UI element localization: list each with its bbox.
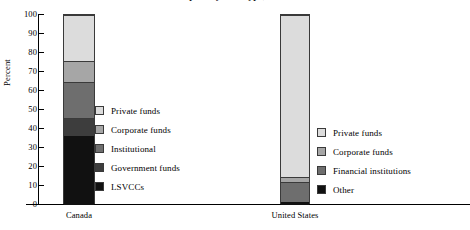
- y-tick: 0: [12, 199, 44, 209]
- y-tick-mark: [39, 147, 44, 148]
- chart-title: Venture capital by fund type, 2002: [0, 0, 432, 1]
- bar-segment: [64, 118, 94, 136]
- y-axis-label: Percent: [2, 59, 12, 86]
- y-tick-mark: [39, 14, 44, 15]
- legend-item: Private funds: [317, 123, 411, 142]
- bar-segment: [64, 15, 94, 61]
- legend-label: Other: [333, 185, 354, 195]
- y-tick: 20: [12, 161, 44, 171]
- y-tick-mark: [39, 33, 44, 34]
- bar-segment: [281, 15, 309, 177]
- stacked-bar: [63, 14, 95, 204]
- y-tick-mark: [39, 71, 44, 72]
- legend-label: Institutional: [111, 144, 156, 154]
- legend-item: Institutional: [95, 139, 180, 158]
- legend-swatch-icon: [95, 106, 104, 115]
- legend-swatch-icon: [317, 185, 326, 194]
- legend-item: Other: [317, 180, 411, 199]
- legend-item: Government funds: [95, 158, 180, 177]
- bar-segment: [64, 82, 94, 117]
- y-tick: 90: [12, 28, 44, 38]
- category-label: United States: [245, 210, 345, 220]
- legend-swatch-icon: [95, 163, 104, 172]
- legend-label: Government funds: [111, 163, 180, 173]
- bar-segment: [281, 182, 309, 202]
- y-tick-label: 70: [28, 66, 37, 76]
- legend-label: Financial institutions: [333, 166, 411, 176]
- legend-item: LSVCCs: [95, 177, 180, 196]
- legend-swatch-icon: [95, 182, 104, 191]
- y-tick-label: 10: [28, 180, 37, 190]
- legend-label: LSVCCs: [111, 182, 144, 192]
- legend-label: Private funds: [333, 128, 382, 138]
- y-tick-label: 90: [28, 28, 37, 38]
- y-tick: 60: [12, 85, 44, 95]
- y-tick-mark: [39, 90, 44, 91]
- legend-swatch-icon: [95, 144, 104, 153]
- legend-item: Corporate funds: [317, 142, 411, 161]
- legend-swatch-icon: [95, 125, 104, 134]
- y-tick-mark: [39, 166, 44, 167]
- y-tick: 80: [12, 47, 44, 57]
- y-tick-label: 100: [24, 9, 37, 19]
- legend-united-states: Private fundsCorporate fundsFinancial in…: [317, 123, 411, 199]
- legend-label: Corporate funds: [111, 125, 171, 135]
- y-tick: 30: [12, 142, 44, 152]
- stacked-bar: [280, 14, 310, 204]
- bar-segment: [64, 61, 94, 83]
- y-tick: 70: [12, 66, 44, 76]
- bar-segment: [64, 136, 94, 205]
- y-tick: 50: [12, 104, 44, 114]
- y-tick-label: 60: [28, 85, 37, 95]
- y-tick-mark: [39, 52, 44, 53]
- y-tick-mark: [39, 128, 44, 129]
- y-tick-label: 20: [28, 161, 37, 171]
- y-tick: 40: [12, 123, 44, 133]
- y-tick-label: 80: [28, 47, 37, 57]
- bar-segment: [281, 202, 309, 205]
- y-tick-mark: [39, 204, 44, 205]
- legend-item: Financial institutions: [317, 161, 411, 180]
- bar-segment: [281, 177, 309, 182]
- legend-item: Corporate funds: [95, 120, 180, 139]
- y-tick-mark: [39, 109, 44, 110]
- y-tick-label: 50: [28, 104, 37, 114]
- legend-item: Private funds: [95, 101, 180, 120]
- y-tick-label: 40: [28, 123, 37, 133]
- legend-label: Private funds: [111, 106, 160, 116]
- legend-swatch-icon: [317, 166, 326, 175]
- y-tick: 10: [12, 180, 44, 190]
- legend-label: Corporate funds: [333, 147, 393, 157]
- y-tick: 100: [12, 9, 44, 19]
- legend-swatch-icon: [317, 147, 326, 156]
- legend-swatch-icon: [317, 128, 326, 137]
- y-tick-mark: [39, 185, 44, 186]
- y-tick-label: 30: [28, 142, 37, 152]
- category-label: Canada: [29, 210, 129, 220]
- y-tick-label: 0: [33, 199, 37, 209]
- legend-canada: Private fundsCorporate fundsInstitutiona…: [95, 101, 180, 196]
